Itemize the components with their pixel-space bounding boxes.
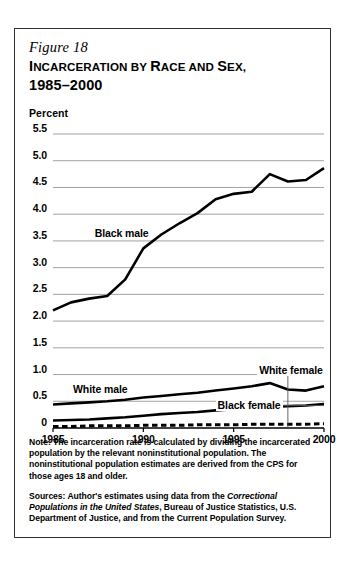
y-axis-tick-label: 2.0 bbox=[21, 309, 47, 321]
sources-label: Sources: bbox=[29, 491, 65, 501]
y-axis-tick-label: 0 bbox=[21, 416, 47, 428]
series-line-white-female bbox=[53, 424, 324, 427]
y-axis-tick-label: 3.0 bbox=[21, 256, 47, 268]
y-axis-tick-label: 2.5 bbox=[21, 282, 47, 294]
series-label-white-female: White female bbox=[257, 364, 325, 376]
y-axis-tick-label: 5.5 bbox=[21, 122, 47, 134]
figure-card: Figure 18 INCARCERATION BY RACE AND SEX,… bbox=[14, 28, 331, 538]
sources-text-part1: Author's estimates using data from the bbox=[65, 491, 227, 501]
y-axis-tick-label: 4.5 bbox=[21, 175, 47, 187]
y-axis-tick-label: 5.0 bbox=[21, 149, 47, 161]
figure-notes: Note: The incarceration rate is calculat… bbox=[29, 437, 318, 524]
note-paragraph: Note: The incarceration rate is calculat… bbox=[29, 437, 318, 482]
sources-paragraph: Sources: Author's estimates using data f… bbox=[29, 491, 318, 525]
y-axis-tick-label: 1.5 bbox=[21, 336, 47, 348]
note-text: The incarceration rate is calculated by … bbox=[29, 437, 310, 481]
note-label: Note: bbox=[29, 437, 51, 447]
y-axis-tick-label: 0.5 bbox=[21, 389, 47, 401]
series-label-black-female: Black female bbox=[216, 399, 283, 411]
series-label-white-male: White male bbox=[71, 383, 129, 395]
y-axis-tick-label: 1.0 bbox=[21, 363, 47, 375]
y-axis-tick-label: 3.5 bbox=[21, 229, 47, 241]
series-label-black-male: Black male bbox=[93, 227, 151, 239]
series-line-black-female bbox=[53, 404, 324, 421]
y-axis-tick-label: 4.0 bbox=[21, 202, 47, 214]
